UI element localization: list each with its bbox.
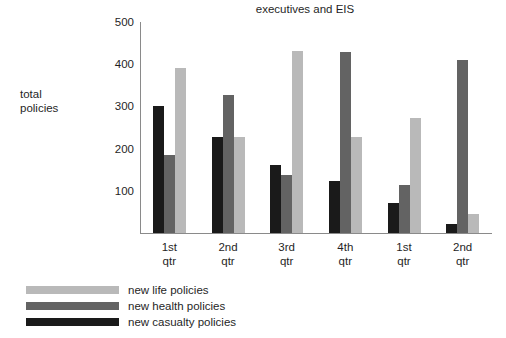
bar-health (457, 60, 468, 233)
legend-swatch-health (26, 302, 119, 310)
legend-swatch-casualty (26, 318, 119, 326)
legend-label-casualty: new casualty policies (128, 315, 236, 329)
x-tick-label-line: 2nd (198, 240, 258, 254)
bar-life (234, 137, 245, 233)
bar-health (340, 52, 351, 233)
legend-swatch-life (26, 286, 119, 294)
bar-casualty (270, 165, 281, 233)
y-axis-label-line-1: total (20, 88, 96, 102)
bar-group (153, 22, 186, 233)
bar-casualty (329, 181, 340, 233)
x-tick-label-line: 3rd (257, 240, 317, 254)
x-tick-label: 1stqtr (139, 240, 199, 268)
bar-life (292, 51, 303, 233)
legend-item-health: new health policies (26, 299, 326, 313)
x-tick-label: 4thqtr (315, 240, 375, 268)
x-axis-line (140, 233, 492, 234)
y-tick-500: 500 (100, 16, 134, 28)
bar-life (351, 137, 362, 233)
x-tick-label: 3rdqtr (257, 240, 317, 268)
bar-group (212, 22, 245, 233)
legend-label-life: new life policies (128, 283, 209, 297)
x-tick-label-line: qtr (257, 254, 317, 268)
bar-casualty (212, 137, 223, 233)
bar-life (175, 68, 186, 233)
plot-area (140, 22, 492, 234)
bar-group (270, 22, 303, 233)
bar-casualty (446, 224, 457, 233)
bar-chart-figure: executives and EIS total policies 500 40… (0, 0, 506, 338)
x-tick-label-line: 1st (374, 240, 434, 254)
bar-health (281, 175, 292, 233)
x-tick-label-line: qtr (315, 254, 375, 268)
y-tick-200: 200 (100, 143, 134, 155)
x-tick-label-line: 1st (139, 240, 199, 254)
x-tick-label: 2ndqtr (198, 240, 258, 268)
x-tick-label-line: qtr (433, 254, 493, 268)
y-tick-100: 100 (100, 185, 134, 197)
bar-casualty (153, 106, 164, 233)
x-tick-label: 2ndqtr (433, 240, 493, 268)
legend-label-health: new health policies (128, 299, 225, 313)
x-tick-label-line: 2nd (433, 240, 493, 254)
y-axis-label-line-2: policies (20, 102, 96, 116)
legend-item-life: new life policies (26, 283, 326, 297)
x-tick-label-line: 4th (315, 240, 375, 254)
legend-item-casualty: new casualty policies (26, 315, 326, 329)
bar-casualty (388, 203, 399, 233)
y-tick-400: 400 (100, 58, 134, 70)
bar-health (223, 95, 234, 233)
y-tick-300: 300 (100, 100, 134, 112)
chart-legend: new life policies new health policies ne… (26, 283, 326, 331)
bar-group (446, 22, 479, 233)
bar-health (399, 185, 410, 233)
x-tick-label: 1stqtr (374, 240, 434, 268)
bar-life (410, 118, 421, 233)
chart-title: executives and EIS (160, 3, 450, 15)
x-tick-label-line: qtr (139, 254, 199, 268)
y-axis-tick-labels: 500 400 300 200 100 (96, 22, 134, 234)
bar-group (388, 22, 421, 233)
x-tick-label-line: qtr (374, 254, 434, 268)
y-axis-label: total policies (20, 88, 96, 115)
bar-group (329, 22, 362, 233)
y-axis-line (140, 22, 141, 234)
x-tick-label-line: qtr (198, 254, 258, 268)
bar-life (468, 214, 479, 233)
bar-health (164, 155, 175, 233)
